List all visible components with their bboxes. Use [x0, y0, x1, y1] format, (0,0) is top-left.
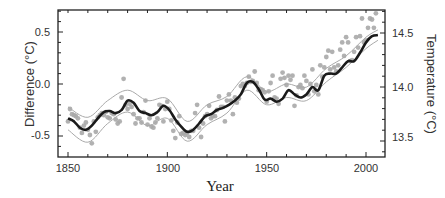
annual-data-point	[370, 17, 375, 22]
right-tick-label: 14.5	[392, 27, 413, 39]
annual-data-point	[199, 135, 204, 140]
annual-data-point	[129, 105, 134, 110]
bottom-tick-label: 2000	[354, 162, 378, 174]
annual-data-point	[121, 76, 126, 81]
annual-data-point	[117, 119, 122, 124]
annual-data-point	[169, 118, 174, 123]
annual-data-point	[89, 141, 94, 146]
annual-data-point	[304, 79, 309, 84]
annual-data-point	[288, 77, 293, 82]
temperature-chart-svg: 0.5 0.0 -0.5 14.5 14.0 13.5 1850 1900 19…	[0, 0, 445, 198]
annual-data-point	[93, 129, 98, 134]
chart: 0.5 0.0 -0.5 14.5 14.0 13.5 1850 1900 19…	[0, 0, 445, 198]
annual-data-point	[195, 102, 200, 107]
annual-data-point	[262, 90, 267, 95]
annual-data-point	[171, 128, 176, 133]
annual-data-point	[80, 131, 85, 136]
annual-data-point	[119, 95, 124, 100]
axes	[58, 10, 385, 157]
uncertainty-band-lines	[68, 30, 378, 142]
annual-data-point	[266, 89, 271, 94]
annual-data-point	[173, 136, 178, 141]
annual-data-point	[139, 120, 144, 125]
annual-data-point	[336, 63, 341, 68]
right-tick-label: 14.0	[392, 81, 413, 93]
annual-data-point	[231, 112, 236, 117]
annual-data-point	[151, 125, 156, 130]
annual-data-point	[352, 49, 357, 54]
annual-data-point	[207, 103, 212, 108]
annual-data-point	[187, 135, 192, 140]
left-tick-label: 0.5	[35, 26, 50, 38]
bottom-tick-label: 1850	[56, 162, 80, 174]
annual-data-point	[246, 74, 251, 79]
annual-data-point	[316, 92, 321, 97]
plot-frame	[58, 10, 385, 157]
tick-marks	[58, 10, 385, 157]
left-axis-title: Difference (°C)	[22, 41, 37, 127]
bottom-axis-title: Year	[206, 178, 234, 194]
annual-data-point	[76, 116, 81, 121]
annual-data-point	[322, 65, 327, 70]
annual-data-point	[223, 119, 228, 124]
annual-data-point	[308, 82, 313, 87]
annual-data-point	[84, 120, 89, 125]
annual-data-point	[310, 67, 315, 72]
annual-data-point	[342, 54, 347, 59]
annual-data-point	[143, 98, 148, 103]
annual-data-point	[346, 40, 351, 45]
annual-data-point	[68, 107, 73, 112]
left-tick-label: -0.5	[31, 129, 50, 141]
annual-data-point	[302, 73, 307, 78]
annual-data-point	[338, 47, 343, 52]
annual-data-point	[155, 116, 160, 121]
annual-data-point	[340, 40, 345, 45]
annual-data-point	[270, 73, 275, 78]
annual-data-point	[344, 35, 349, 40]
annual-data-point	[356, 45, 361, 50]
annual-data-point	[133, 121, 138, 126]
annual-data-point	[284, 83, 289, 88]
annual-data-point	[88, 133, 93, 138]
annual-data-point	[153, 120, 158, 125]
right-axis-title: Temperature (°C)	[424, 34, 439, 134]
bottom-tick-label: 1950	[255, 162, 279, 174]
bottom-tick-label: 1900	[156, 162, 180, 174]
annual-data-point	[268, 81, 273, 86]
annual-data-point	[217, 94, 222, 99]
uncertainty-band-line	[68, 40, 378, 142]
annual-data-point	[193, 111, 198, 116]
annual-data-point	[366, 25, 371, 30]
annual-data-point	[137, 116, 142, 121]
annual-data-point	[360, 16, 365, 21]
annual-data-point	[280, 70, 285, 75]
annual-data-point	[131, 112, 136, 117]
annual-data-point	[372, 25, 377, 30]
annual-data-point	[227, 92, 232, 97]
annual-data-point	[252, 69, 257, 74]
annual-data-point	[300, 86, 305, 91]
annual-data-point	[290, 73, 295, 78]
annual-data-point	[324, 55, 329, 60]
annual-data-point	[213, 114, 218, 119]
annual-data-point	[165, 99, 170, 104]
annual-data-point	[147, 116, 152, 121]
annual-data-point	[107, 116, 112, 121]
annual-data-point	[330, 49, 335, 54]
annual-data-point	[161, 119, 166, 124]
right-tick-label: 13.5	[392, 131, 413, 143]
annual-data-point	[177, 114, 182, 119]
annual-data-point	[358, 34, 363, 39]
annual-data-point	[292, 103, 297, 108]
annual-data-point	[374, 11, 379, 16]
